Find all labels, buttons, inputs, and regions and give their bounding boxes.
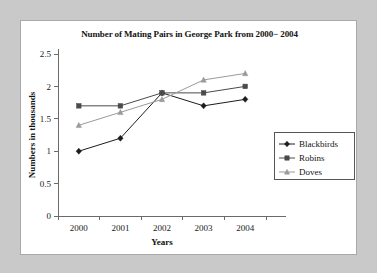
y-axis-title: Numbers in thousands	[27, 91, 37, 178]
y-tick-label: 0	[47, 211, 52, 221]
legend-label-robins: Robins	[299, 153, 325, 163]
y-tick-label: 1	[47, 146, 52, 156]
legend-label-doves: Doves	[299, 167, 322, 177]
x-axis-title: Years	[151, 237, 173, 247]
chart-panel: Number of Mating Pairs in George Park fr…	[20, 20, 357, 255]
x-tick-label: 2001	[111, 223, 129, 233]
y-tick-label: 1.5	[40, 114, 52, 124]
legend-label-blackbirds: Blackbirds	[299, 139, 338, 149]
marker-diamond	[201, 103, 206, 109]
series-doves	[76, 71, 248, 128]
marker-diamond	[76, 148, 81, 154]
marker-square	[160, 91, 165, 96]
y-tick-label: 2.5	[40, 49, 52, 59]
marker-triangle	[159, 96, 164, 101]
y-tick-label: 0.5	[40, 179, 52, 189]
y-tick-label: 2	[47, 82, 52, 92]
x-tick-label: 2003	[195, 223, 214, 233]
x-tick-label: 2004	[236, 223, 255, 233]
marker-square	[201, 91, 206, 96]
legend: BlackbirdsRobinsDoves	[274, 132, 354, 179]
marker-diamond	[243, 96, 248, 102]
marker-square	[285, 156, 289, 160]
x-tick-label: 2000	[70, 223, 89, 233]
marker-square	[243, 84, 248, 89]
marker-square	[77, 104, 82, 109]
marker-triangle	[243, 71, 248, 76]
marker-square	[118, 104, 123, 109]
x-tick-label: 2002	[153, 223, 171, 233]
line-chart: 00.511.522.520002001200220032004YearsNum…	[21, 21, 358, 256]
